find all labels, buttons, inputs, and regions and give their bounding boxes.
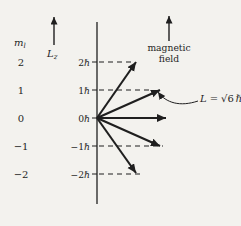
ml-value: 0 [18,113,24,124]
lz-tick-labels: 2ℏ 1ℏ 0ℏ −1ℏ −2ℏ [71,57,91,180]
ml-value: 2 [18,57,24,68]
ml-value: −2 [14,169,29,180]
ml-column-header: ml [14,37,26,50]
diagram-canvas: ml Lz 2 1 0 −1 −2 2ℏ 1ℏ 0ℏ −1ℏ −2ℏ magne… [0,0,241,226]
momentum-vectors [97,62,166,173]
magnetic-field-line1: magnetic [147,42,190,53]
lz-tick-label: −1ℏ [71,141,91,152]
lz-tick-label: 0ℏ [78,113,90,124]
lz-tick-label: 1ℏ [78,85,90,96]
ml-value-labels: 2 1 0 −1 −2 [14,57,29,180]
vector-magnitude-label: L=√6ℏ [199,93,241,104]
ml-value: 1 [18,85,24,96]
angular-momentum-diagram: ml Lz 2 1 0 −1 −2 2ℏ 1ℏ 0ℏ −1ℏ −2ℏ magne… [0,0,241,226]
ml-value: −1 [14,141,29,152]
lz-axis-label: Lz [46,48,58,61]
axis-ticks [92,62,97,174]
magnetic-field-line2: field [159,53,180,64]
lz-tick-label: −2ℏ [71,169,91,180]
lz-tick-label: 2ℏ [78,57,90,68]
vector-label-leader-arrow-icon [158,92,198,104]
magnetic-field-caption: magnetic field [147,42,190,64]
